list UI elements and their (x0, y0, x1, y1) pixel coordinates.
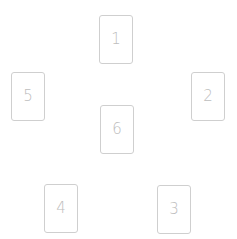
card-number: 3 (169, 202, 179, 217)
card-number: 2 (203, 89, 213, 104)
card-number: 4 (56, 201, 66, 216)
card-spread-layout: 1 2 3 4 5 6 (0, 0, 237, 239)
card-position-6[interactable]: 6 (100, 105, 134, 154)
card-position-4[interactable]: 4 (44, 184, 78, 233)
card-position-3[interactable]: 3 (157, 185, 191, 234)
card-number: 6 (112, 122, 122, 137)
card-number: 1 (111, 32, 121, 47)
card-position-2[interactable]: 2 (191, 72, 225, 121)
card-position-1[interactable]: 1 (99, 15, 133, 64)
card-number: 5 (23, 89, 33, 104)
card-position-5[interactable]: 5 (11, 72, 45, 121)
